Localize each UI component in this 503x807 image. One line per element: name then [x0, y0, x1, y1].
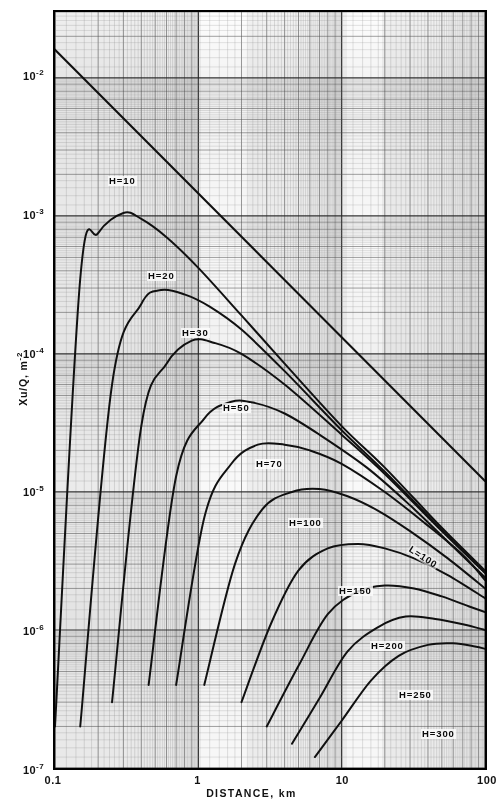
- curve-label-h-20: H=20: [147, 271, 176, 281]
- curve-layer: [55, 12, 485, 768]
- curve-label-h-100: H=100: [288, 518, 323, 528]
- figure-root: 10-210-310-410-510-610-7 0.1110100 DISTA…: [0, 0, 503, 807]
- y-tick-label-5: 10-7: [4, 762, 44, 776]
- curve-label-h-200: H=200: [370, 641, 405, 651]
- x-axis-title: DISTANCE, km: [0, 787, 503, 799]
- y-tick-label-1: 10-3: [4, 207, 44, 221]
- curve-label-h-150: H=150: [338, 586, 373, 596]
- curve-h-150: [241, 544, 485, 702]
- curve-label-h-10: H=10: [108, 176, 137, 186]
- y-tick-label-4: 10-6: [4, 623, 44, 637]
- x-tick-label-3: 100: [477, 774, 497, 786]
- x-tick-label-0: 0.1: [45, 774, 62, 786]
- curve-h-10: [55, 212, 485, 726]
- x-tick-label-1: 1: [194, 774, 201, 786]
- curve-label-h-30: H=30: [181, 328, 210, 338]
- curve-label-h-300: H=300: [421, 729, 456, 739]
- curve-label-h-250: H=250: [398, 690, 433, 700]
- y-axis-title: Xu/Q, m-2: [15, 324, 29, 434]
- y-tick-label-0: 10-2: [4, 68, 44, 82]
- x-tick-label-2: 10: [336, 774, 349, 786]
- curve-h-250: [292, 616, 485, 743]
- plot-area: [53, 10, 487, 770]
- curve-h-200: [267, 585, 485, 726]
- curve-l-100: [55, 50, 485, 481]
- y-tick-label-3: 10-5: [4, 484, 44, 498]
- curve-label-h-50: H=50: [222, 403, 251, 413]
- curve-label-h-70: H=70: [255, 459, 284, 469]
